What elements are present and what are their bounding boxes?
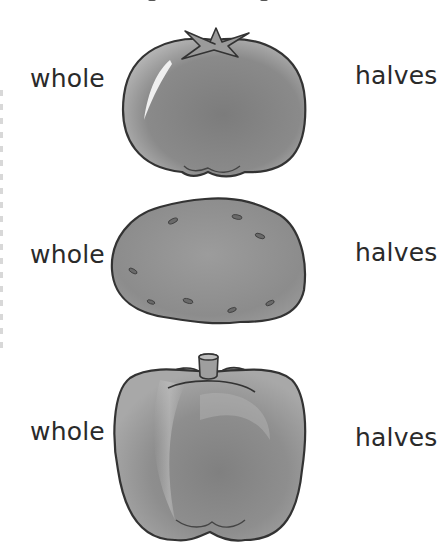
illustrations (0, 0, 445, 548)
tomato-illustration (123, 28, 305, 177)
potato-illustration (112, 198, 305, 323)
bell-pepper-illustration (114, 354, 305, 541)
